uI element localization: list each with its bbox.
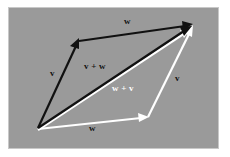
vector-diagram xyxy=(0,0,230,157)
label-w-plus-v: w + v xyxy=(112,84,134,93)
label-v-plus-w: v + w xyxy=(84,62,106,71)
label-v-left: v xyxy=(50,69,55,78)
label-v-right: v xyxy=(175,74,180,83)
figure-page: w v v + w w + v v w xyxy=(0,0,230,157)
label-w-bottom: w xyxy=(89,124,96,133)
label-w-top: w xyxy=(124,17,131,26)
